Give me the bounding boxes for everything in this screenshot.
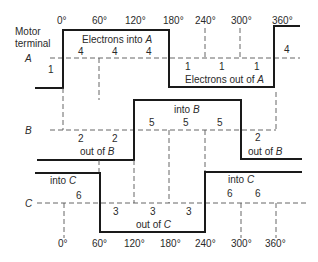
step-b-5: 2: [255, 132, 261, 143]
step-a-3: 4: [146, 46, 152, 57]
top-tick-180: 180°: [163, 15, 184, 26]
terminal-b-out-label-1: out of B: [80, 146, 115, 157]
step-c-0: 6: [76, 190, 82, 201]
terminal-b-into-label: into B: [174, 104, 200, 115]
bottom-axis: 0° 60° 120° 180° 240° 300° 360°: [58, 238, 286, 249]
terminal-c-out-label: out of C: [136, 219, 172, 230]
top-axis: 0° 60° 120° 180° 240° 300° 360°: [57, 15, 293, 26]
step-a-1: 4: [78, 46, 84, 57]
step-c-3: 3: [186, 206, 192, 217]
top-tick-60: 60°: [92, 15, 107, 26]
step-b-3: 5: [183, 117, 189, 128]
step-c-2: 3: [150, 206, 156, 217]
terminal-a-into-label: Electrons into A: [82, 34, 152, 45]
terminal-c-label: C: [25, 198, 33, 209]
bottom-tick-300: 300°: [231, 238, 252, 249]
terminal-a-label: A: [24, 53, 32, 64]
step-c-5: 6: [255, 188, 261, 199]
step-a-0: 1: [48, 64, 54, 75]
step-a-5: 1: [219, 61, 225, 72]
terminal-c-into-label-2: into C: [228, 174, 255, 185]
top-tick-360: 360°: [272, 15, 293, 26]
step-a-6: 1: [254, 61, 260, 72]
terminal-a-row: A Electrons into A 1 4 4 4 1 1 1 4 Elect…: [24, 26, 300, 100]
step-b-0: 2: [78, 133, 84, 144]
step-b-4: 5: [217, 117, 223, 128]
terminal-b-out-label-2: out of B: [248, 146, 283, 157]
terminal-b-row: B into B 2 2 5 5 5 2 out of B out of B: [25, 88, 302, 160]
header-line2: terminal: [15, 38, 51, 49]
step-a-7: 4: [284, 44, 290, 55]
top-tick-120: 120°: [125, 15, 146, 26]
step-c-4: 6: [227, 188, 233, 199]
bottom-tick-60: 60°: [92, 238, 107, 249]
terminal-b-label: B: [25, 125, 32, 136]
step-b-2: 5: [149, 117, 155, 128]
bottom-tick-240: 240°: [195, 238, 216, 249]
step-c-1: 3: [113, 206, 119, 217]
bottom-tick-360: 360°: [265, 238, 286, 249]
bottom-tick-180: 180°: [160, 238, 181, 249]
top-tick-300: 300°: [231, 15, 252, 26]
terminal-a-out-label: Electrons out of A: [185, 74, 264, 85]
top-tick-0: 0°: [57, 15, 67, 26]
terminal-c-into-label: into C: [50, 175, 77, 186]
header-line1: Motor: [15, 26, 41, 37]
three-phase-waveform-diagram: Motor terminal 0° 60° 120° 180° 240° 300…: [0, 0, 318, 262]
step-a-2: 4: [112, 46, 118, 57]
bottom-tick-0: 0°: [58, 238, 68, 249]
top-tick-240: 240°: [195, 15, 216, 26]
bottom-tick-120: 120°: [124, 238, 145, 249]
step-b-1: 2: [112, 133, 118, 144]
step-a-4: 1: [185, 61, 191, 72]
